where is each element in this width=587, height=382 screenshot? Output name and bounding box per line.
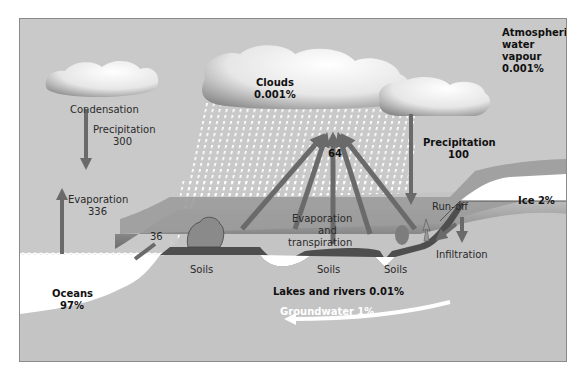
evaporation-left-value: 336 [88,206,107,218]
evapotranspiration-label-2: and [318,225,337,237]
evapotranspiration-label-1: Evaporation [292,213,352,225]
clouds-percent: 0.001% [254,89,296,101]
atmospheric-label-3: vapour [502,51,541,63]
precipitation-right-label: Precipitation [423,137,496,149]
cloud-left-icon [46,61,159,97]
infiltration-label: Infiltration [436,249,488,261]
condensation-label: Condensation [70,104,139,116]
precipitation-left-value: 300 [113,136,132,148]
soils-label-2: Soils [317,264,340,276]
precipitation-right-value: 100 [448,149,469,161]
atmospheric-label-1: Atmospheric [502,27,567,39]
soils-label-3: Soils [384,264,407,276]
flow-36-label: 36 [150,231,163,243]
evapotranspiration-label-3: transpiration [288,237,352,249]
evaporation-left-label: Evaporation [68,194,128,206]
groundwater-label: Groundwater 1% [280,306,374,318]
atmospheric-label-2: water [502,39,534,51]
soils-label-1: Soils [190,264,213,276]
lakes-rivers-label: Lakes and rivers 0.01% [273,286,404,298]
ice-label: Ice 2% [518,195,555,207]
flow-64-label: 64 [328,148,342,160]
bush-right-icon [395,225,409,245]
precipitation-left-label: Precipitation [93,124,156,136]
atmospheric-percent: 0.001% [502,63,544,75]
runoff-label: Run-off [432,201,468,213]
clouds-label: Clouds [256,77,294,89]
oceans-label: Oceans [52,288,93,300]
water-cycle-diagram: Condensation Precipitation 300 Evaporati… [19,18,567,362]
oceans-percent: 97% [60,300,84,312]
